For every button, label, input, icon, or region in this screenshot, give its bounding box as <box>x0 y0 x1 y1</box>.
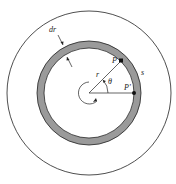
label-P: P <box>111 56 117 65</box>
point-P-prime <box>132 91 136 95</box>
dr-arrowhead-outer-icon <box>61 42 64 46</box>
label-theta: θ <box>108 77 112 86</box>
theta-arrowhead-icon <box>103 80 106 83</box>
annular-ring-diagram: dr P r θ P' s <box>0 0 176 184</box>
label-P-prime: P' <box>123 83 131 92</box>
point-P <box>119 59 123 63</box>
label-dr: dr <box>49 25 57 34</box>
label-r: r <box>96 70 100 79</box>
radius-to-P <box>89 61 121 93</box>
dr-arrowhead-inner-icon <box>67 57 70 61</box>
label-s: s <box>141 68 144 77</box>
